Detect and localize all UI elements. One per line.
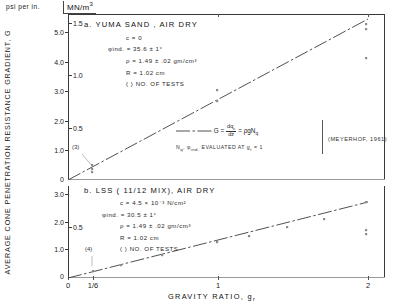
x-axis-title-sub: r xyxy=(253,296,256,302)
panel-lss-mix: 3.0 2.0 1.0 0 0.5 b. LSS ( 11/12 MIX), A… xyxy=(68,186,385,278)
equation-rhs-sub: q xyxy=(255,131,258,136)
ticklabel-x-1_6: 1/6 xyxy=(88,281,98,290)
ticklabel-b-psi-2.0: 2.0 xyxy=(54,219,68,226)
equation-note: Nq, φind. EVALUATED AT gr = 1 xyxy=(176,144,263,152)
ticklabel-x-0: 0 xyxy=(66,281,70,290)
equation-note-c: EVALUATED AT g xyxy=(200,144,251,150)
ticklabel-psi-2.0: 2.0 xyxy=(54,118,68,125)
x-axis-title-main: GRAVITY RATIO, g xyxy=(168,292,253,301)
ticklabel-psi-5.0: 5.0 xyxy=(54,29,68,36)
unit-mn-exponent: 3 xyxy=(90,1,94,7)
equation-note-b-sub: ind. xyxy=(191,147,200,152)
y-axis-title-text: AVERAGE CONE PENETRATION RESISTANCE GRAD… xyxy=(3,29,12,274)
equation-box: G = dqc dz = ρgNq Nq, φind. EVALUATED AT… xyxy=(176,120,384,160)
y-axis-title: AVERAGE CONE PENETRATION RESISTANCE GRAD… xyxy=(0,0,16,303)
ticklabel-b-psi-1.0: 1.0 xyxy=(54,246,68,253)
panel-yuma-sand: 5.0 4.0 3.0 2.0 1.0 0 1.5 1.0 0.5 a. YUM… xyxy=(68,14,385,180)
equation-citation: (MEYERHOF, 1961) xyxy=(328,136,387,142)
equation-line-key xyxy=(176,128,212,134)
ticklabel-x-2: 2 xyxy=(366,281,370,290)
equation-note-d: = 1 xyxy=(252,144,263,150)
unit-label-mn: MN/m3 xyxy=(63,1,96,14)
equation-fraction: dqc dz xyxy=(226,124,236,138)
equation-num-sub: c xyxy=(233,126,235,131)
ticklabel-psi-4.0: 4.0 xyxy=(54,59,68,66)
equation-note-b: , φ xyxy=(183,144,191,150)
equation-denominator: dz xyxy=(226,132,236,138)
ticklabel-b-psi-3.0: 3.0 xyxy=(54,191,68,198)
panel-b-data-layer xyxy=(68,186,385,278)
panel-a-annotation-leader xyxy=(82,154,92,166)
equation-equals: = xyxy=(238,127,242,134)
ticklabel-psi-3.0: 3.0 xyxy=(54,88,68,95)
ticklabel-psi-1.0: 1.0 xyxy=(54,147,68,154)
panel-b-prediction-line xyxy=(68,202,368,278)
equation-lhs: G = xyxy=(214,127,224,134)
x-axis-title: GRAVITY RATIO, gr xyxy=(168,292,256,302)
equation-rhs: ρgN xyxy=(244,127,256,134)
figure-root: AVERAGE CONE PENETRATION RESISTANCE GRAD… xyxy=(0,0,393,303)
equation-main: G = dqc dz = ρgNq xyxy=(176,124,258,138)
ticklabel-b-psi-0: 0 xyxy=(60,273,68,280)
unit-mn-text: MN/m xyxy=(67,3,90,12)
equation-divider xyxy=(322,120,323,154)
ticklabel-psi-0: 0 xyxy=(60,176,68,183)
unit-label-psi: psi per in. xyxy=(6,3,40,10)
ticklabel-x-1: 1 xyxy=(216,281,220,290)
